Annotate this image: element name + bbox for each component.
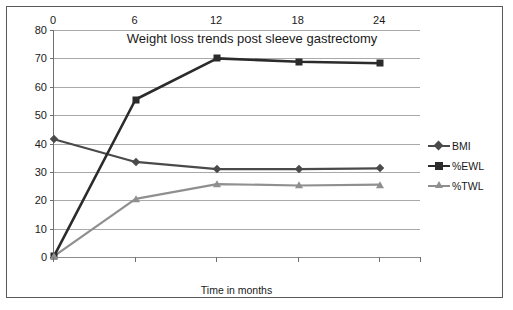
- legend-label: %TWL: [452, 180, 484, 192]
- legend-item-ewl[interactable]: %EWL: [428, 156, 500, 176]
- y-axis-tick-label: 30: [35, 166, 47, 177]
- x-axis-tick-label: 24: [373, 15, 385, 26]
- y-axis-tick-label: 60: [35, 81, 47, 92]
- y-axis-tick-label: 50: [35, 110, 47, 121]
- y-axis-tick-label: 80: [35, 25, 47, 36]
- data-point-marker: [214, 55, 221, 62]
- legend-marker-square-icon: [435, 162, 443, 170]
- legend-swatch: [428, 140, 450, 152]
- legend-label: %EWL: [452, 160, 484, 172]
- x-axis-tick: [53, 257, 54, 262]
- y-axis-tick-label: 40: [35, 138, 47, 149]
- x-axis-tick-label: 12: [210, 15, 222, 26]
- y-axis-tick-label: 10: [35, 223, 47, 234]
- data-point-marker: [213, 180, 221, 187]
- chart-frame: Weight loss trends post sleeve gastrecto…: [6, 6, 503, 298]
- x-axis: [53, 257, 420, 258]
- x-axis-tick-label: 0: [50, 15, 56, 26]
- x-axis-tick-label: 6: [131, 15, 137, 26]
- data-point-marker: [295, 182, 303, 189]
- x-axis-tick: [379, 257, 380, 262]
- data-point-marker: [50, 252, 58, 259]
- legend-marker-diamond-icon: [434, 141, 444, 151]
- y-axis-tick-label: 0: [41, 252, 47, 263]
- x-axis-tick: [216, 257, 217, 262]
- data-point-marker: [132, 195, 140, 202]
- x-axis-tick: [298, 257, 299, 262]
- data-point-marker: [376, 181, 384, 188]
- x-axis-tick: [420, 257, 421, 262]
- x-axis-tick: [135, 257, 136, 262]
- legend-marker-triangle-icon: [435, 181, 443, 188]
- legend-swatch: [428, 180, 450, 192]
- plot-area: 01020304050607080: [53, 30, 420, 257]
- legend-swatch: [428, 160, 450, 172]
- data-point-marker: [295, 58, 302, 65]
- x-axis-tick-label: 18: [292, 15, 304, 26]
- series-line: [54, 58, 380, 256]
- x-axis-title: Time in months: [53, 284, 420, 296]
- data-point-marker: [377, 60, 384, 67]
- series-line: [54, 184, 380, 256]
- y-axis-tick-label: 70: [35, 53, 47, 64]
- legend-label: BMI: [452, 140, 471, 152]
- y-axis-tick-label: 20: [35, 195, 47, 206]
- series-lines: [54, 30, 421, 257]
- chart-legend: BMI%EWL%TWL: [428, 136, 500, 196]
- data-point-marker: [132, 96, 139, 103]
- legend-item-twl[interactable]: %TWL: [428, 176, 500, 196]
- chart-figure: Weight loss trends post sleeve gastrecto…: [0, 0, 513, 310]
- legend-item-bmi[interactable]: BMI: [428, 136, 500, 156]
